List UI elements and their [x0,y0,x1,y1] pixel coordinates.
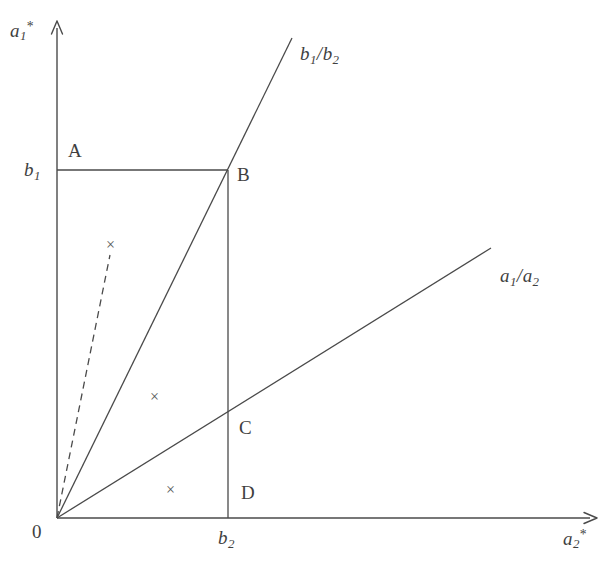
b1-over-b2-ray-line [57,38,292,518]
b1-over-b2-num-base: b [300,43,310,64]
y-axis-label-base: a [10,20,20,41]
dashed-ray-line [57,255,110,518]
a1-over-a2-ray-line [57,248,491,518]
b1-over-b2-den-sub: 2 [333,52,339,67]
a1-over-a2-slash: / [517,265,522,286]
y-tick-label-b1: b1 [24,160,40,183]
y-tick-label-sub: 1 [34,168,40,183]
x-tick-label-b2: b2 [218,528,234,551]
a1-over-a2-den-base: a [523,265,533,286]
marker-middle: × [150,389,159,405]
x-tick-label-base: b [218,527,228,548]
region-label-c: C [239,418,252,437]
x-axis-label-base: a [563,528,573,549]
region-label-d: D [241,483,255,502]
y-axis-label: a1* [10,20,34,43]
y-axis-label-sub: 1 [20,28,26,43]
b1-over-b2-ray-label: b1/b2 [300,44,339,67]
marker-lower: × [166,482,175,498]
x-axis-label-sup: * [580,527,587,542]
figure-root: a1* a2* 0 b1 b2 b1/b2 a1/a2 A B C D × × … [0,0,615,568]
a1-over-a2-ray-label: a1/a2 [500,266,539,289]
marker-upper: × [106,237,115,253]
a1-over-a2-num-sub: 1 [510,274,516,289]
b1-over-b2-num-sub: 1 [310,52,316,67]
a1-over-a2-num-base: a [500,265,510,286]
b1-over-b2-slash: / [317,43,322,64]
x-tick-label-sub: 2 [228,536,234,551]
b1-over-b2-den-base: b [323,43,333,64]
region-label-b: B [237,165,250,184]
y-axis-label-sup: * [27,19,34,34]
y-tick-label-base: b [24,159,34,180]
x-axis-label-sub: 2 [573,536,579,551]
a1-over-a2-den-sub: 2 [533,274,539,289]
x-axis-label: a2* [563,528,587,551]
origin-label: 0 [32,522,42,541]
region-label-a: A [68,141,82,160]
